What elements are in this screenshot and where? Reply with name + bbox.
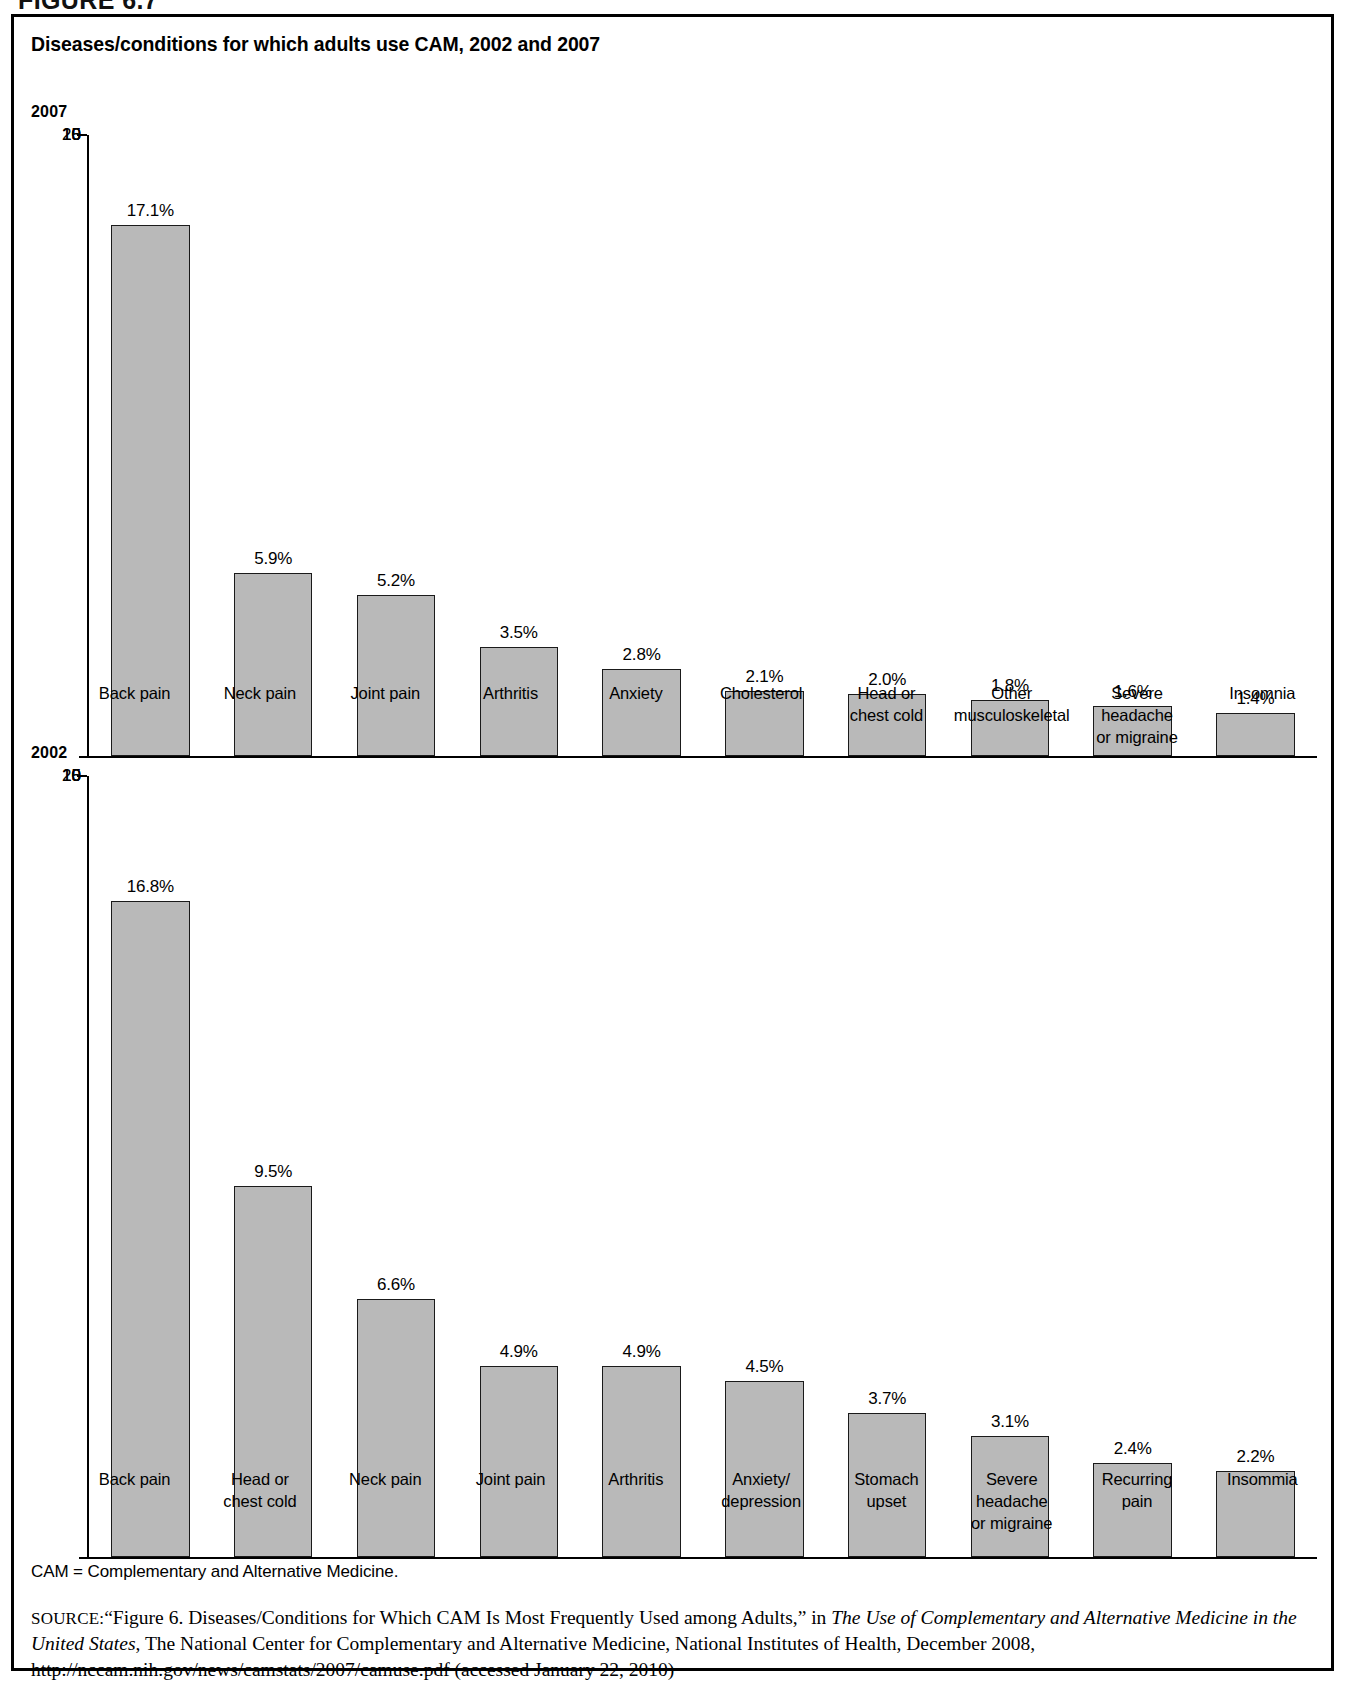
chart-panel-2002: 2002 05101520 16.8%9.5%6.6%4.9%4.9%4.5%3…	[14, 744, 1331, 1559]
x-axis-category-label: Back pain	[72, 683, 197, 748]
bar-slot: 2.1%	[703, 135, 826, 756]
bar-value-label: 2.2%	[1237, 1447, 1275, 1467]
bar-slot: 4.9%	[457, 776, 580, 1557]
cam-abbreviation-footnote: CAM = Complementary and Alternative Medi…	[31, 1562, 398, 1582]
bar-slot: 3.5%	[457, 135, 580, 756]
x-axis-category-label: Severe headacheor migraine	[1074, 683, 1199, 748]
x-axis-category-label: Back pain	[72, 1469, 197, 1534]
x-axis-labels-2002: Back painHead orchest coldNeck painJoint…	[72, 1469, 1325, 1534]
bar-value-label: 4.5%	[745, 1357, 783, 1377]
x-axis-category-label: Head orchest cold	[824, 683, 949, 748]
x-axis-category-label: Neck pain	[197, 683, 322, 748]
bar-value-label: 3.5%	[500, 623, 538, 643]
bar-slot: 2.0%	[826, 135, 949, 756]
x-axis-category-label: Joint pain	[448, 1469, 573, 1534]
figure-container: Diseases/conditions for which adults use…	[11, 14, 1334, 1671]
bar-value-label: 2.4%	[1114, 1439, 1152, 1459]
x-axis-category-label: Neck pain	[323, 1469, 448, 1534]
x-axis-line-2002	[79, 1557, 1317, 1559]
x-axis-category-label: Severeheadacheor migraine	[949, 1469, 1074, 1534]
panel-year-label-2007: 2007	[31, 103, 67, 121]
x-axis-category-label: Anxiety/depression	[698, 1469, 823, 1534]
bar-value-label: 3.1%	[991, 1412, 1029, 1432]
plot-area-2002: 05101520 16.8%9.5%6.6%4.9%4.9%4.5%3.7%3.…	[31, 776, 1323, 1559]
bar-value-label: 4.9%	[500, 1342, 538, 1362]
axis-area-2007: 05101520 17.1%5.9%5.2%3.5%2.8%2.1%2.0%1.…	[87, 135, 1317, 758]
x-axis-category-label: Insommia	[1200, 1469, 1325, 1534]
x-axis-category-label: Joint pain	[323, 683, 448, 748]
bar-value-label: 9.5%	[254, 1162, 292, 1182]
bar-slot: 2.4%	[1071, 776, 1194, 1557]
bar-slot: 4.5%	[703, 776, 826, 1557]
x-axis-category-label: Arthritis	[573, 1469, 698, 1534]
source-label: SOURCE:	[31, 1609, 104, 1628]
x-axis-category-label: Recurringpain	[1074, 1469, 1199, 1534]
figure-title: Diseases/conditions for which adults use…	[31, 32, 600, 56]
y-tick-label: 20	[62, 125, 81, 145]
bar-group-2007: 17.1%5.9%5.2%3.5%2.8%2.1%2.0%1.8%1.6%1.4…	[89, 135, 1317, 756]
axis-area-2002: 05101520 16.8%9.5%6.6%4.9%4.9%4.5%3.7%3.…	[87, 776, 1317, 1559]
x-axis-category-label: Arthritis	[448, 683, 573, 748]
bar-slot: 1.8%	[949, 135, 1072, 756]
bar-value-label: 5.2%	[377, 571, 415, 591]
bar-slot: 17.1%	[89, 135, 212, 756]
x-axis-category-label: Cholesterol	[698, 683, 823, 748]
figure-number-header: FIGURE 6.7	[18, 0, 158, 12]
x-axis-category-label: Anxiety	[573, 683, 698, 748]
source-citation: SOURCE:“Figure 6. Diseases/Conditions fo…	[31, 1605, 1317, 1682]
chart-panel-2007: 2007 05101520 17.1%5.9%5.2%3.5%2.8%2.1%2…	[14, 103, 1331, 758]
bar: 17.1%	[111, 225, 190, 756]
bar-value-label: 4.9%	[623, 1342, 661, 1362]
bar-slot: 9.5%	[212, 776, 335, 1557]
plot-area-2007: 05101520 17.1%5.9%5.2%3.5%2.8%2.1%2.0%1.…	[31, 135, 1323, 758]
source-text-part1: “Figure 6. Diseases/Conditions for Which…	[104, 1607, 831, 1628]
bar-slot: 3.7%	[826, 776, 949, 1557]
panel-year-label-2002: 2002	[31, 744, 67, 762]
bar-slot: 5.2%	[335, 135, 458, 756]
bar-slot: 1.6%	[1071, 135, 1194, 756]
bar-slot: 3.1%	[949, 776, 1072, 1557]
bar-slot: 16.8%	[89, 776, 212, 1557]
bar-slot: 2.2%	[1194, 776, 1317, 1557]
bar-group-2002: 16.8%9.5%6.6%4.9%4.9%4.5%3.7%3.1%2.4%2.2…	[89, 776, 1317, 1557]
x-axis-category-label: Stomachupset	[824, 1469, 949, 1534]
source-text-part2: , The National Center for Complementary …	[31, 1633, 1035, 1680]
y-tick-label: 20	[62, 766, 81, 786]
x-axis-category-label: Insomnia	[1200, 683, 1325, 748]
bar-slot: 5.9%	[212, 135, 335, 756]
bar-value-label: 16.8%	[127, 877, 174, 897]
x-axis-category-label: Head orchest cold	[197, 1469, 322, 1534]
bar-value-label: 3.7%	[868, 1389, 906, 1409]
x-axis-category-label: Othermusculoskeletal	[949, 683, 1074, 748]
bar: 16.8%	[111, 901, 190, 1557]
x-axis-labels-2007: Back painNeck painJoint painArthritisAnx…	[72, 683, 1325, 748]
bar-value-label: 5.9%	[254, 549, 292, 569]
bar-value-label: 2.8%	[623, 645, 661, 665]
bar-slot: 6.6%	[335, 776, 458, 1557]
bar-value-label: 17.1%	[127, 201, 174, 221]
bar-slot: 1.4%	[1194, 135, 1317, 756]
bar-slot: 4.9%	[580, 776, 703, 1557]
bar-slot: 2.8%	[580, 135, 703, 756]
bar-value-label: 6.6%	[377, 1275, 415, 1295]
